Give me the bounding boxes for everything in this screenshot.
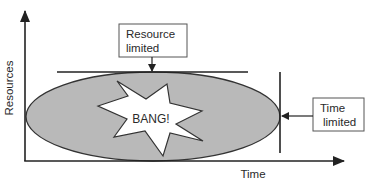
time-limited-callout: Time limited bbox=[282, 98, 364, 131]
x-axis-label: Time bbox=[240, 168, 265, 180]
diagram-canvas: BANG! Resources Time Resource limited Ti… bbox=[0, 0, 369, 182]
time-limited-line2: limited bbox=[323, 116, 356, 128]
resource-limited-line1: Resource bbox=[126, 28, 175, 40]
bang-label: BANG! bbox=[132, 112, 169, 126]
resource-limited-line2: limited bbox=[126, 42, 159, 54]
time-limited-line1: Time bbox=[320, 102, 345, 114]
resource-limited-callout: Resource limited bbox=[119, 24, 187, 71]
y-axis-label: Resources bbox=[3, 60, 15, 115]
